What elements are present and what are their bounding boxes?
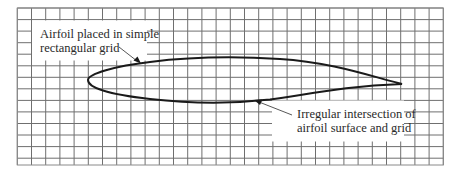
airfoil-grid-figure: Airfoil placed in simple rectangular gri…: [0, 0, 457, 173]
upper-label-line1: Airfoil placed in simple: [40, 27, 160, 41]
lower-label-line1: Irregular intersection of: [297, 107, 417, 121]
upper-label-line2: rectangular grid: [40, 41, 120, 55]
lower-label-line2: airfoil surface and grid: [297, 121, 412, 135]
airfoil-grid-svg: Airfoil placed in simple rectangular gri…: [0, 0, 457, 173]
